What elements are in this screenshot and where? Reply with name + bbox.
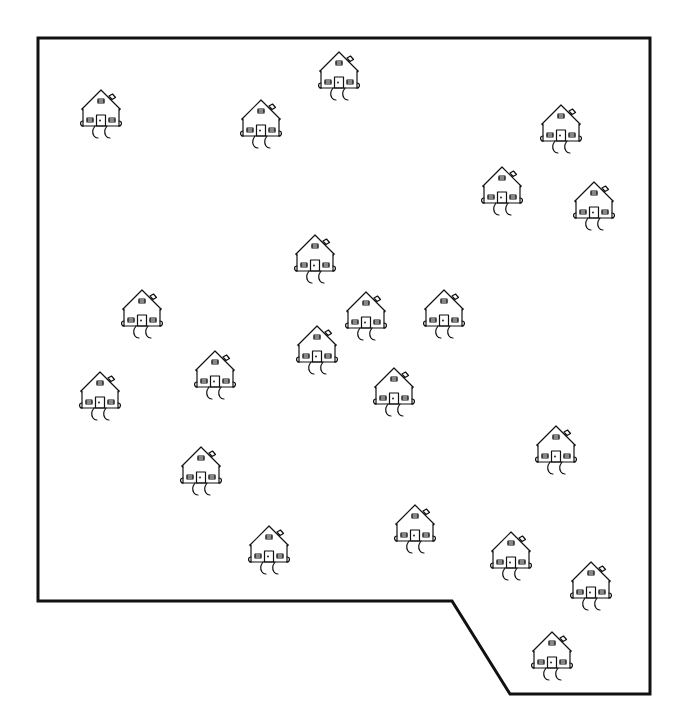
house-icon bbox=[539, 103, 583, 155]
diagram-canvas bbox=[0, 0, 683, 723]
house-icon bbox=[569, 560, 613, 612]
house-icon bbox=[534, 424, 578, 476]
house-icon bbox=[372, 366, 416, 418]
house-icon bbox=[78, 370, 122, 422]
house-icon bbox=[79, 88, 123, 140]
house-icon bbox=[572, 180, 616, 232]
house-icon bbox=[293, 233, 337, 285]
house-icon bbox=[530, 630, 574, 682]
house-icon bbox=[295, 324, 339, 376]
house-icon bbox=[239, 98, 283, 150]
house-icon bbox=[193, 349, 237, 401]
house-icon bbox=[120, 288, 164, 340]
house-icon bbox=[317, 50, 361, 102]
house-icon bbox=[422, 288, 466, 340]
house-icon bbox=[179, 445, 223, 497]
house-icon bbox=[247, 524, 291, 576]
house-icon bbox=[489, 530, 533, 582]
house-icon bbox=[344, 290, 388, 342]
house-icon bbox=[393, 503, 437, 555]
house-icon bbox=[480, 165, 524, 217]
